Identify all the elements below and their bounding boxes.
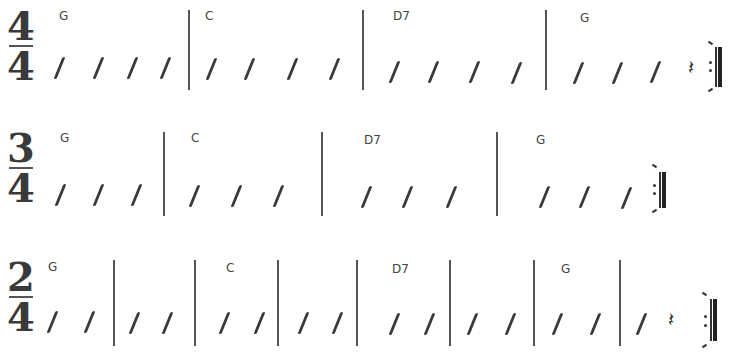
time-signature-bottom: 4 bbox=[7, 48, 35, 84]
chord-symbol: G bbox=[580, 11, 589, 25]
time-signature-top: 4 bbox=[7, 8, 35, 44]
time-signature: 4 4 bbox=[7, 8, 35, 84]
thin-barline bbox=[715, 47, 717, 87]
beat-slash bbox=[129, 312, 141, 334]
barline bbox=[356, 260, 358, 346]
beat-slash bbox=[131, 184, 143, 206]
beat-slash bbox=[162, 312, 174, 334]
beat-slash bbox=[590, 313, 602, 335]
chord-symbol: D7 bbox=[393, 9, 410, 23]
beat-slash bbox=[93, 57, 105, 79]
beat-slash bbox=[160, 57, 172, 79]
barline bbox=[188, 10, 190, 90]
barline bbox=[449, 260, 451, 346]
bracket-bottom-hook bbox=[702, 344, 707, 349]
thick-barline bbox=[662, 172, 666, 208]
time-signature: 3 4 bbox=[7, 130, 35, 206]
time-signature-top: 3 bbox=[7, 130, 35, 166]
beat-slash bbox=[55, 184, 67, 206]
barline bbox=[163, 132, 165, 216]
barline bbox=[362, 10, 364, 90]
thick-barline bbox=[713, 299, 717, 341]
time-signature-bottom: 4 bbox=[7, 170, 35, 206]
beat-slash bbox=[446, 186, 458, 208]
beat-slash bbox=[206, 58, 218, 80]
repeat-dot bbox=[709, 61, 712, 64]
beat-slash bbox=[273, 185, 285, 207]
quarter-rest-icon: 𝄽 bbox=[668, 307, 674, 331]
beat-slash bbox=[539, 186, 551, 208]
barline bbox=[496, 132, 498, 216]
beat-slash bbox=[287, 58, 299, 80]
repeat-dot bbox=[653, 184, 656, 187]
chord-symbol: D7 bbox=[392, 262, 409, 276]
chord-symbol: G bbox=[48, 260, 57, 274]
beat-slash bbox=[552, 313, 564, 335]
thin-barline bbox=[710, 299, 712, 341]
beat-slash bbox=[332, 312, 344, 334]
chord-symbol: C bbox=[191, 131, 199, 145]
repeat-dot bbox=[704, 324, 707, 327]
barline bbox=[545, 10, 547, 90]
beat-slash bbox=[579, 186, 591, 208]
barline bbox=[277, 260, 279, 346]
barline bbox=[619, 260, 621, 346]
repeat-end-barline bbox=[706, 42, 728, 92]
beat-slash bbox=[424, 313, 436, 335]
beat-slash bbox=[612, 62, 624, 84]
barline bbox=[533, 260, 535, 346]
chord-symbol: G bbox=[536, 133, 545, 147]
time-signature-top: 2 bbox=[7, 259, 35, 295]
beat-slash bbox=[428, 61, 440, 83]
beat-slash bbox=[389, 61, 401, 83]
beat-slash bbox=[511, 62, 523, 84]
chord-symbol: C bbox=[226, 261, 234, 275]
staff-3-4: 3 4 G C D7 G bbox=[0, 120, 730, 230]
beat-slash bbox=[231, 185, 243, 207]
repeat-end-barline bbox=[700, 293, 722, 349]
thick-barline bbox=[718, 47, 722, 87]
bracket-top-hook bbox=[708, 41, 713, 46]
chord-symbol: G bbox=[59, 9, 68, 23]
thin-barline bbox=[659, 172, 661, 208]
beat-slash bbox=[244, 58, 256, 80]
beat-slash bbox=[467, 313, 479, 335]
beat-slash bbox=[329, 58, 341, 80]
chord-symbol: C bbox=[205, 9, 213, 23]
bracket-top-hook bbox=[652, 164, 657, 169]
beat-slash bbox=[189, 185, 201, 207]
beat-slash bbox=[505, 313, 517, 335]
beat-slash bbox=[219, 312, 231, 334]
staff-2-4: 2 4 G C D7 G 𝄽 bbox=[0, 245, 730, 364]
beat-slash bbox=[389, 313, 401, 335]
beat-slash bbox=[84, 311, 96, 333]
barline bbox=[194, 260, 196, 346]
beat-slash bbox=[573, 62, 585, 84]
chord-symbol: G bbox=[60, 131, 69, 145]
repeat-dot bbox=[709, 69, 712, 72]
beat-slash bbox=[636, 313, 648, 335]
repeat-end-barline bbox=[650, 165, 672, 215]
repeat-dot bbox=[653, 192, 656, 195]
beat-slash bbox=[298, 312, 310, 334]
staff-4-4: 4 4 G C D7 G 𝄽 bbox=[0, 0, 730, 110]
quarter-rest-icon: 𝄽 bbox=[688, 55, 694, 79]
beat-slash bbox=[621, 187, 633, 209]
beat-slash bbox=[93, 184, 105, 206]
beat-slash bbox=[54, 57, 66, 79]
barline bbox=[113, 260, 115, 346]
chord-symbol: G bbox=[561, 262, 570, 276]
bracket-bottom-hook bbox=[652, 209, 657, 214]
beat-slash bbox=[127, 57, 139, 79]
time-signature-bottom: 4 bbox=[7, 299, 35, 335]
bracket-bottom-hook bbox=[708, 88, 713, 93]
time-signature: 2 4 bbox=[7, 259, 35, 335]
beat-slash bbox=[402, 186, 414, 208]
beat-slash bbox=[361, 186, 373, 208]
beat-slash bbox=[650, 61, 662, 83]
chord-symbol: D7 bbox=[364, 133, 381, 147]
barline bbox=[321, 132, 323, 216]
beat-slash bbox=[47, 311, 59, 333]
beat-slash bbox=[469, 61, 481, 83]
bracket-top-hook bbox=[702, 292, 707, 297]
